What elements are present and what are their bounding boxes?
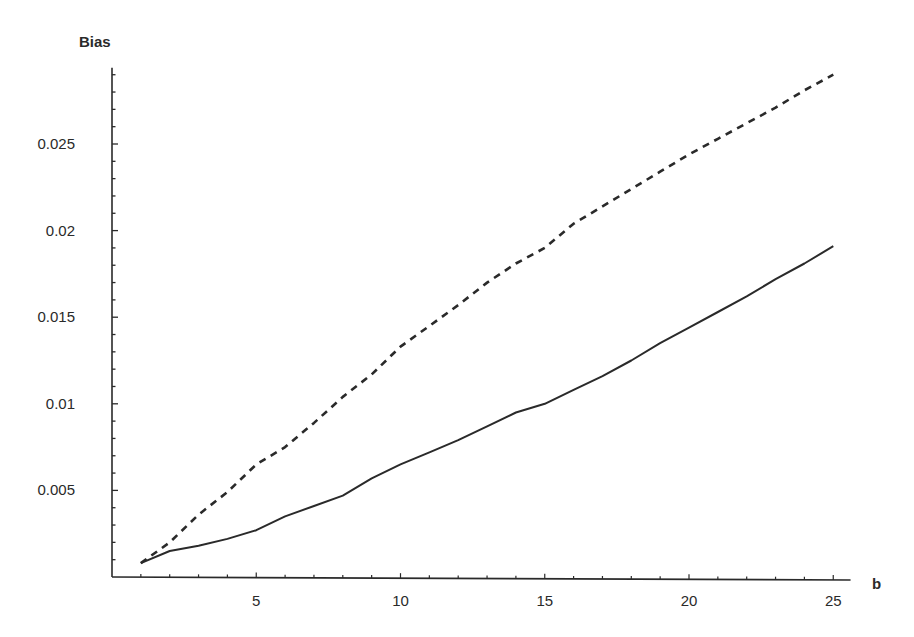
y-tick-label: 0.02 (46, 222, 75, 239)
x-axis-title: b (872, 575, 881, 592)
solid-series-line (141, 246, 834, 563)
dashed-series-line (141, 75, 834, 563)
x-tick-label: 25 (825, 592, 842, 609)
x-tick-label: 20 (681, 592, 698, 609)
x-axis: 510152025 (112, 573, 851, 609)
bias-line-chart: 0.0050.010.0150.020.025 510152025 Bias b (0, 0, 914, 637)
y-axis-title: Bias (79, 33, 111, 50)
x-axis-line (112, 577, 851, 580)
x-tick-label: 15 (536, 592, 553, 609)
x-tick-label: 5 (252, 592, 260, 609)
x-tick-label: 10 (392, 592, 409, 609)
y-tick-label: 0.005 (37, 481, 75, 498)
y-tick-label: 0.015 (37, 308, 75, 325)
series-layer (141, 75, 834, 563)
y-tick-label: 0.01 (46, 395, 75, 412)
y-axis: 0.0050.010.0150.020.025 (37, 68, 118, 577)
y-tick-label: 0.025 (37, 135, 75, 152)
